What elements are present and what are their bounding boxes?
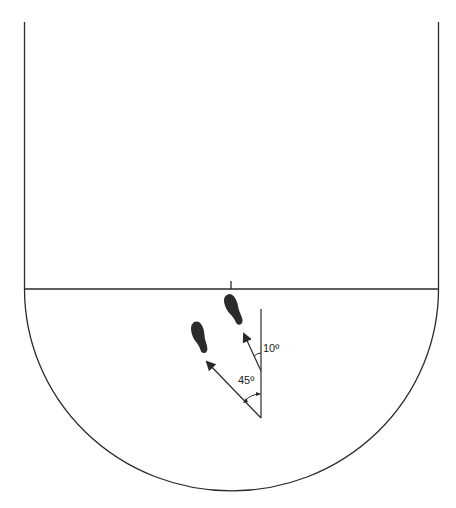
footprint-left-icon xyxy=(190,320,209,354)
angle-label-45: 45º xyxy=(238,374,254,386)
court-arc xyxy=(25,289,439,491)
footprint-right-icon xyxy=(222,292,244,327)
court-diagram: 10º 45º xyxy=(0,0,456,508)
angle-label-10: 10º xyxy=(263,342,279,354)
arrow-10-degree xyxy=(244,334,261,371)
arrow-45-degree xyxy=(207,362,261,418)
angle-arc-45-head-right xyxy=(256,392,261,396)
angle-arc-10 xyxy=(254,353,261,356)
